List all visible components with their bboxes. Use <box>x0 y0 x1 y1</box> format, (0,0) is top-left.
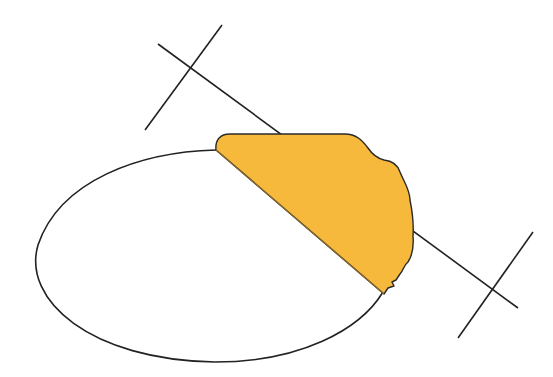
diagram-canvas <box>0 0 553 377</box>
tick-mark-bottom <box>458 232 533 338</box>
ellipse-segment-diagram <box>0 0 553 377</box>
tick-mark-top <box>145 25 222 130</box>
